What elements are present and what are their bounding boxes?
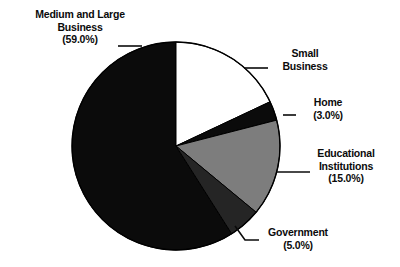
pie-slices: [72, 42, 280, 250]
pie-label-medium-and-large-business-line2: Business: [10, 21, 150, 34]
pie-label-medium-and-large-business-percent: (59.0%): [10, 33, 150, 46]
pie-label-educational-institutions-line1: Educational: [317, 147, 374, 159]
pie-label-government-line1: Government: [268, 226, 328, 238]
pie-label-educational-institutions-percent: (15.0%): [300, 172, 392, 185]
pie-label-medium-and-large-business-line1: Medium and Large: [35, 8, 125, 20]
pie-label-home-line1: Home: [314, 96, 342, 108]
pie-chart-figure: Medium and Large Business (59.0%) Small …: [0, 0, 400, 267]
pie-label-home: Home (3.0%): [298, 96, 358, 121]
pie-label-educational-institutions: Educational Institutions (15.0%): [300, 147, 392, 185]
pie-label-medium-and-large-business: Medium and Large Business (59.0%): [10, 8, 150, 46]
pie-label-small-business-line2: Business: [268, 60, 342, 73]
pie-label-small-business: Small Business: [268, 47, 342, 72]
pie-label-government-percent: (5.0%): [254, 239, 342, 252]
pie-label-small-business-line1: Small: [291, 47, 318, 59]
pie-label-government: Government (5.0%): [254, 226, 342, 251]
pie-label-educational-institutions-line2: Institutions: [300, 160, 392, 173]
pie-label-home-percent: (3.0%): [298, 109, 358, 122]
